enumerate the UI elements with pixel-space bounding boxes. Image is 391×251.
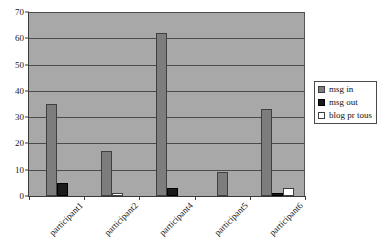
x-axis-label-cell: participant6 <box>250 199 305 251</box>
bar <box>101 151 112 196</box>
bars <box>195 12 250 196</box>
x-axis-category-label: participant1 <box>48 201 85 238</box>
x-axis-label-cell: participant5 <box>195 199 250 251</box>
bar <box>112 193 123 196</box>
x-axis-category-label: participant2 <box>103 201 140 238</box>
x-axis-category-label: participant6 <box>269 201 306 238</box>
bars <box>84 12 139 196</box>
legend-item[interactable]: msg in <box>318 85 372 94</box>
bar <box>217 172 228 196</box>
bar <box>156 33 167 196</box>
bar <box>46 104 57 196</box>
legend-swatch-icon <box>318 99 325 106</box>
bar <box>167 188 178 196</box>
legend-item-label: msg out <box>329 98 358 107</box>
legend-item[interactable]: msg out <box>318 98 372 107</box>
bar-groups <box>29 12 305 196</box>
bar-group <box>84 12 139 196</box>
x-axis-labels: participant1participant2participant4part… <box>29 199 305 251</box>
bar <box>261 109 272 196</box>
bars <box>139 12 194 196</box>
legend-item-label: blog pr tous <box>329 111 372 120</box>
x-axis-category-label: participant4 <box>158 201 195 238</box>
bar-group <box>29 12 84 196</box>
bar <box>57 183 68 196</box>
x-axis-label-cell: participant2 <box>84 199 139 251</box>
bars <box>250 12 305 196</box>
x-axis-category-label: participant5 <box>213 201 250 238</box>
x-axis-label-cell: participant4 <box>139 199 194 251</box>
x-axis-label-cell: participant1 <box>29 199 84 251</box>
legend-item-label: msg in <box>329 85 353 94</box>
legend-swatch-icon <box>318 112 325 119</box>
bar-group <box>139 12 194 196</box>
chart-legend: msg inmsg outblog pr tous <box>314 81 377 124</box>
legend-swatch-icon <box>318 86 325 93</box>
x-axis-tick-mark <box>305 196 306 200</box>
bar-group <box>195 12 250 196</box>
plot-wrap: 010203040506070 <box>29 12 305 196</box>
bar <box>272 193 283 196</box>
bar <box>283 188 294 196</box>
bars <box>29 12 84 196</box>
legend-item[interactable]: blog pr tous <box>318 111 372 120</box>
x-axis-line <box>28 196 306 197</box>
bar-group <box>250 12 305 196</box>
bar-chart: 010203040506070 participant1participant2… <box>0 0 391 251</box>
